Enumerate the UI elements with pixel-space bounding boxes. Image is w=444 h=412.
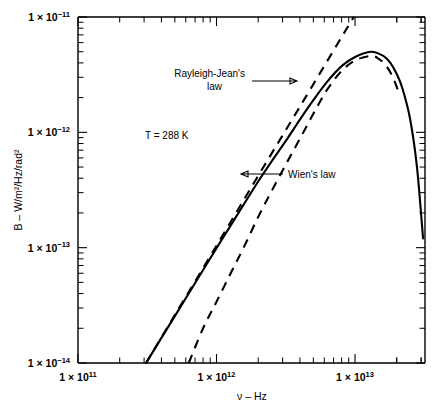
wien-annotation: Wien's law (241, 169, 336, 180)
tick-label: 1 × 10−11 (28, 10, 70, 24)
x-axis-ticks (78, 17, 421, 363)
plot-frame (78, 17, 425, 363)
rayleigh-label-line1: Rayleigh-Jean's (174, 68, 245, 79)
y-axis-tick-labels: 1 × 10−111 × 10−121 × 10−131 × 10−14 (28, 10, 71, 370)
rayleigh-annotation: Rayleigh-Jean's law (174, 68, 297, 92)
rayleigh-label-line2: law (207, 81, 223, 92)
planck-law-curve (146, 52, 423, 363)
svg-text:ν – Hz: ν – Hz (237, 390, 267, 402)
tick-label: 1 × 1011 (59, 370, 96, 384)
x-axis-tick-labels: 1 × 10111 × 10121 × 1013 (59, 370, 374, 384)
tick-label: 1 × 10−14 (28, 356, 71, 370)
tick-label: 1 × 10−12 (28, 125, 70, 139)
wien-law-curve (189, 56, 400, 363)
wien-label: Wien's law (288, 169, 336, 180)
temperature-label: T = 288 K (145, 130, 189, 141)
y-axis-ticks (78, 17, 425, 363)
svg-text:B – W/m²/Hz/rad²: B – W/m²/Hz/rad² (12, 149, 24, 231)
chart-svg: 1 × 10−111 × 10−121 × 10−131 × 10−14 1 ×… (0, 0, 444, 412)
tick-label: 1 × 1012 (198, 370, 236, 384)
temperature-annotation: T = 288 K (145, 130, 189, 141)
x-axis-title: ν – Hz (237, 390, 267, 402)
tick-label: 1 × 10−13 (28, 240, 70, 254)
y-axis-title: B – W/m²/Hz/rad² (12, 149, 24, 231)
tick-label: 1 × 1013 (336, 370, 374, 384)
rayleigh-arrow (252, 78, 297, 84)
blackbody-radiation-chart: 1 × 10−111 × 10−121 × 10−131 × 10−14 1 ×… (0, 0, 444, 412)
